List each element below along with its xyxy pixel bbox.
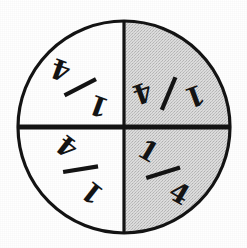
fraction-circle-diagram: 1 4 1 4 1 4 1 4: [0, 0, 247, 248]
fraction-circle-figure: 1 4 1 4 1 4 1 4: [0, 0, 247, 248]
